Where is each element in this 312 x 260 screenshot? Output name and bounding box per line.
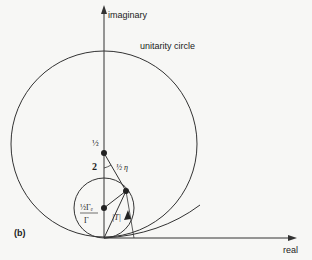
argand-diagram: imaginary unitarity circle ½ 2 ½ η ½Γₑ Γ…	[0, 0, 312, 260]
imaginary-axis-label: imaginary	[108, 10, 148, 20]
half-eta-label: ½ η	[116, 163, 128, 172]
unitarity-circle-label: unitarity circle	[140, 41, 195, 51]
half-label: ½	[92, 138, 99, 148]
partial-width-numerator: ½Γₑ	[80, 203, 93, 212]
panel-label: (b)	[14, 228, 26, 238]
imaginary-axis-arrow-icon	[101, 5, 107, 14]
partial-width-denominator: Γ	[84, 216, 89, 225]
amplitude-label: |T|	[112, 213, 121, 222]
center-point	[101, 150, 107, 156]
amplitude-point	[123, 188, 129, 194]
angle-arc	[104, 165, 111, 168]
real-axis-arrow-icon	[288, 235, 297, 241]
real-axis-label: real	[283, 245, 298, 255]
small-radius-line	[104, 191, 126, 208]
eta-radius-line	[104, 153, 126, 191]
small-center-point	[101, 205, 107, 211]
two-label: 2	[92, 161, 97, 172]
